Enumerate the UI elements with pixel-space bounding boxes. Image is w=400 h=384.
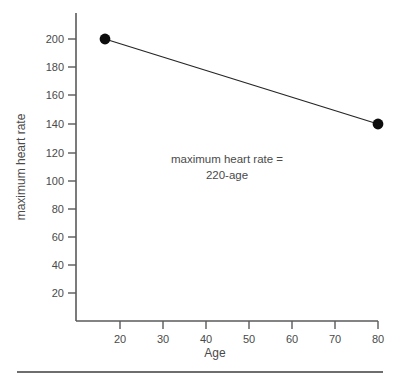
chart-annotation: maximum heart rate = 220-age: [171, 153, 283, 181]
y-tick-label-180: 180: [46, 61, 64, 73]
y-tick-label-40: 40: [52, 259, 64, 271]
annotation-line-2: 220-age: [206, 169, 248, 181]
data-line-series-1: [105, 39, 378, 124]
x-tick-label-60: 60: [286, 333, 298, 345]
y-axis-ticks: [68, 39, 76, 293]
y-tick-label-200: 200: [46, 33, 64, 45]
y-tick-label-100: 100: [46, 175, 64, 187]
annotation-line-1: maximum heart rate =: [171, 153, 283, 165]
x-axis-tick-labels: 20 30 40 50 60 70 80: [114, 333, 384, 345]
data-point-marker-age-80: [373, 119, 384, 130]
x-tick-label-20: 20: [114, 333, 126, 345]
data-point-marker-age-16: [100, 34, 111, 45]
x-tick-label-50: 50: [243, 333, 255, 345]
chart-figure: 200 180 160 140 120 100 80 60 40 20 20 3…: [0, 0, 400, 384]
line-chart: 200 180 160 140 120 100 80 60 40 20 20 3…: [0, 0, 400, 384]
x-tick-label-80: 80: [372, 333, 384, 345]
x-tick-label-40: 40: [200, 333, 212, 345]
y-tick-label-20: 20: [52, 287, 64, 299]
x-tick-label-70: 70: [329, 333, 341, 345]
y-axis-title: maximum heart rate: [14, 113, 28, 220]
x-axis-title: Age: [204, 346, 226, 360]
y-tick-label-140: 140: [46, 118, 64, 130]
y-tick-label-80: 80: [52, 203, 64, 215]
x-axis-ticks: [120, 321, 378, 329]
y-tick-label-120: 120: [46, 147, 64, 159]
x-tick-label-30: 30: [157, 333, 169, 345]
y-axis-tick-labels: 200 180 160 140 120 100 80 60 40 20: [46, 33, 64, 299]
y-tick-label-60: 60: [52, 231, 64, 243]
y-tick-label-160: 160: [46, 89, 64, 101]
